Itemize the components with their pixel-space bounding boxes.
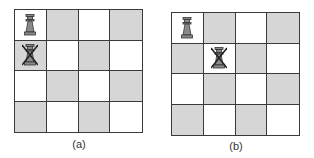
crossed-queen-icon <box>22 43 38 67</box>
queen-icon <box>179 16 195 40</box>
square-r0-c1 <box>204 13 236 44</box>
queen-icon <box>22 13 38 37</box>
square-r2-c1 <box>204 74 236 105</box>
square-r2-c0 <box>172 74 204 105</box>
square-r0-c3 <box>110 10 142 41</box>
square-r1-c3 <box>267 44 299 75</box>
square-r2-c1 <box>47 71 79 102</box>
square-r0-c0 <box>15 10 47 41</box>
square-r0-c2 <box>79 10 111 41</box>
square-r3-c3 <box>110 102 142 133</box>
board-b <box>171 12 300 136</box>
square-r1-c1 <box>204 44 236 75</box>
square-r1-c2 <box>79 41 111 72</box>
caption-b: (b) <box>216 140 256 152</box>
square-r0-c2 <box>236 13 268 44</box>
square-r1-c2 <box>236 44 268 75</box>
square-r3-c0 <box>172 105 204 136</box>
square-r2-c3 <box>110 71 142 102</box>
square-r2-c2 <box>79 71 111 102</box>
square-r0-c1 <box>47 10 79 41</box>
square-r3-c1 <box>47 102 79 133</box>
square-r2-c0 <box>15 71 47 102</box>
square-r1-c3 <box>110 41 142 72</box>
square-r3-c0 <box>15 102 47 133</box>
caption-a: (a) <box>59 138 99 150</box>
square-r3-c2 <box>79 102 111 133</box>
square-r2-c3 <box>267 74 299 105</box>
board-a <box>14 9 143 133</box>
square-r0-c0 <box>172 13 204 44</box>
square-r3-c1 <box>204 105 236 136</box>
square-r2-c2 <box>236 74 268 105</box>
crossed-queen-icon <box>211 46 227 70</box>
square-r3-c2 <box>236 105 268 136</box>
square-r1-c1 <box>47 41 79 72</box>
square-r1-c0 <box>15 41 47 72</box>
square-r1-c0 <box>172 44 204 75</box>
square-r3-c3 <box>267 105 299 136</box>
square-r0-c3 <box>267 13 299 44</box>
